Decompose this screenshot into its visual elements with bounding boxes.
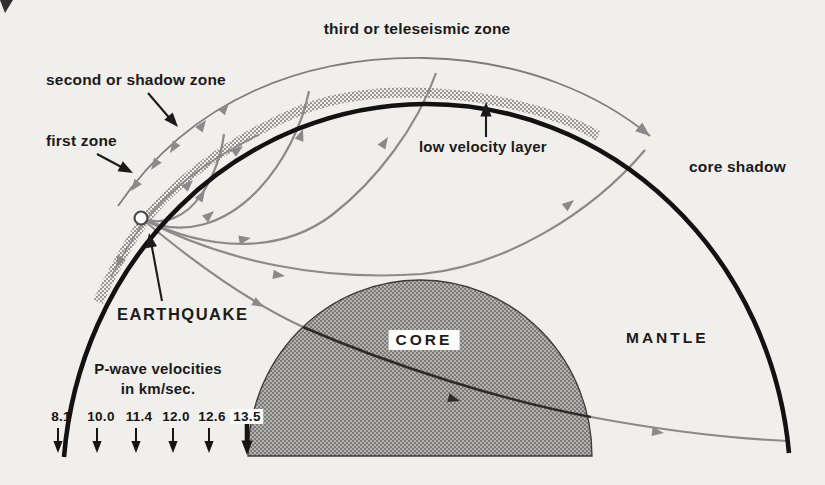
velocity-value-4: 12.6 — [198, 409, 225, 424]
ray-core-transit-exit-leg — [591, 417, 788, 441]
arrowhead-icon — [168, 441, 177, 453]
first-zone-label: first zone — [46, 133, 117, 149]
arrowhead-icon — [272, 270, 285, 281]
arrowhead-icon — [635, 123, 653, 141]
velocity-value-5: 13.5 — [230, 409, 263, 424]
arrowhead-icon — [131, 441, 140, 453]
arrowhead-icon — [204, 441, 213, 453]
velocity-value-5-text: 13.5 — [230, 409, 263, 424]
second-zone-label: second or shadow zone — [46, 72, 226, 88]
arrowhead-icon — [147, 158, 161, 173]
velocity-value-0: 8.1 — [51, 409, 71, 424]
arrowhead-icon — [562, 196, 577, 211]
core-label: CORE — [390, 331, 459, 349]
ray-mid-mantle — [141, 73, 436, 244]
seismic-zones-diagram: third or teleseismic zone second or shad… — [0, 0, 825, 485]
low-velocity-layer-label: low velocity layer — [419, 139, 547, 155]
velocity-scale-arrows — [53, 424, 252, 455]
velocity-caption-line2: in km/sec. — [121, 381, 196, 397]
velocity-value-1: 10.0 — [87, 409, 114, 424]
arrowhead-icon — [118, 161, 136, 178]
core-body — [248, 280, 592, 456]
scan-artifact — [0, 0, 13, 13]
velocity-caption-line1: P-wave velocities — [94, 361, 222, 377]
earthquake-pointer — [151, 242, 162, 301]
core-shadow-label: core shadow — [689, 159, 786, 175]
velocity-value-2: 11.4 — [126, 409, 153, 424]
arrowhead-icon — [378, 134, 392, 149]
arrowhead-icon — [53, 441, 62, 453]
earthquake-label: EARTHQUAKE — [117, 306, 248, 323]
earthquake-focus-circle — [135, 212, 148, 225]
mantle-label: MANTLE — [626, 330, 709, 346]
label-pointers — [97, 93, 492, 301]
arrowhead-icon — [92, 441, 101, 453]
ray-core-grazing — [141, 150, 645, 275]
velocity-value-3: 12.0 — [162, 409, 189, 424]
third-zone-label: third or teleseismic zone — [324, 21, 511, 37]
